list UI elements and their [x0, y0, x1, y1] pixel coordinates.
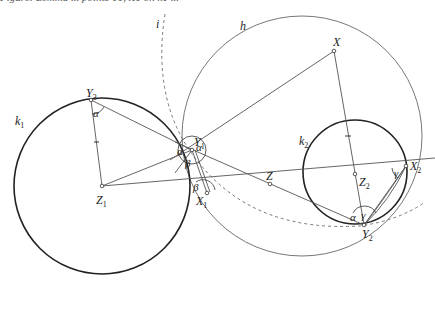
angle-alpha-Y3: α: [93, 107, 99, 119]
angle-beta-X1: β: [192, 181, 199, 193]
geometry-diagram: k1 k2 h i X Y3 Y1 X1 Z1 Z Z2 X2 Y2 α α α…: [0, 0, 435, 313]
angle-alpha-Y1-right: α: [196, 141, 202, 153]
label-X: X: [332, 35, 341, 49]
angle-alpha-Y1-left: α: [177, 145, 183, 157]
label-Z2: Z2: [359, 175, 370, 191]
angle-alpha-Y2: α: [350, 211, 356, 223]
angle-gamma-Y2: γ: [361, 209, 366, 221]
label-k1: k1: [15, 114, 24, 130]
label-Z: Z: [266, 169, 273, 183]
angle-beta-Y1: β: [184, 157, 191, 169]
label-i: i: [156, 17, 159, 31]
label-Y3: Y3: [86, 86, 97, 102]
label-Y2: Y2: [362, 227, 373, 243]
label-X1: X1: [195, 194, 207, 210]
label-Z1: Z1: [96, 193, 107, 209]
label-k2: k2: [299, 134, 308, 150]
label-h: h: [240, 19, 246, 33]
angle-gamma-X2: γ: [394, 167, 399, 179]
construction-lines: [91, 51, 435, 225]
